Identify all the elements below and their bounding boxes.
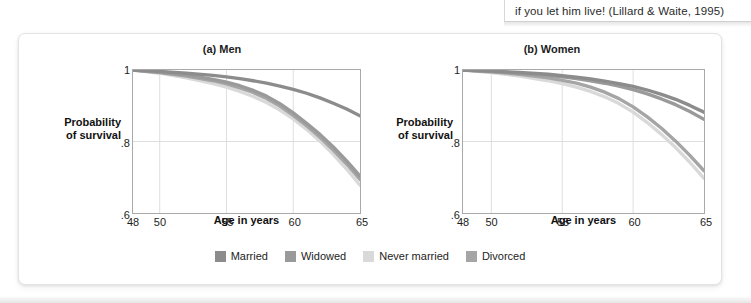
y-axis-label-line-2: of survival [35,129,121,142]
figure-panel: (a) Men Probability of survival 1 .8 .6 … [18,33,722,285]
series-line-widowed [133,70,360,176]
plot-area-women: 1 .8 .6 4850556065 [462,69,705,214]
plot-svg-women [463,70,704,213]
legend-label: Widowed [301,250,346,262]
x-axis-label-men: Age in years [132,214,361,226]
y-axis-label-line-1: Probability [367,116,453,129]
chart-men: (a) Men Probability of survival 1 .8 .6 … [97,34,347,234]
y-tick-1-men: 1 [124,65,130,76]
page-edge [0,296,751,303]
series-line-divorced [463,70,704,171]
y-tick-1-women: 1 [454,65,460,76]
y-axis-label-women: Probability of survival [367,116,453,143]
y-axis-label-line-1: Probability [35,116,121,129]
y-tick-08-women: .8 [451,138,460,149]
legend-swatch-icon [466,251,477,262]
legend-label: Married [231,250,268,262]
x-axis-label-women: Age in years [462,214,705,226]
chart-title-men: (a) Men [97,43,347,55]
y-axis-label-line-2: of survival [367,129,453,142]
legend-item-divorced[interactable]: Divorced [466,250,525,262]
caption-strip: if you let him live! (Lillard & Waite, 1… [504,0,751,22]
legend-swatch-icon [215,251,226,262]
legend-item-widowed[interactable]: Widowed [285,250,346,262]
plot-area-men: 1 .8 .6 4850556065 [132,69,361,214]
caption-text: if you let him live! (Lillard & Waite, 1… [515,5,724,17]
legend-label: Divorced [482,250,525,262]
chart-women: (b) Women Probability of survival 1 .8 .… [427,34,677,234]
legend-label: Never married [379,250,449,262]
legend-item-never-married[interactable]: Never married [363,250,449,262]
y-tick-08-men: .8 [121,138,130,149]
caption-shadow [504,22,751,27]
legend-item-married[interactable]: Married [215,250,268,262]
series-line-married [463,70,704,112]
y-axis-label-men: Probability of survival [35,116,121,143]
chart-title-women: (b) Women [427,43,677,55]
figure-page: if you let him live! (Lillard & Waite, 1… [0,0,751,303]
legend-swatch-icon [285,251,296,262]
plot-svg-men [133,70,360,213]
chart-legend: MarriedWidowedNever marriedDivorced [19,250,721,262]
legend-swatch-icon [363,251,374,262]
